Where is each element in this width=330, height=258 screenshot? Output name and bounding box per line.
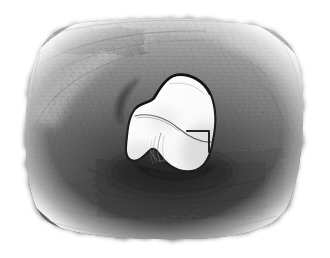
paper-grain-overlay [0, 0, 330, 258]
drawing-canvas [0, 0, 330, 258]
pencil-drawing-svg [0, 0, 330, 258]
